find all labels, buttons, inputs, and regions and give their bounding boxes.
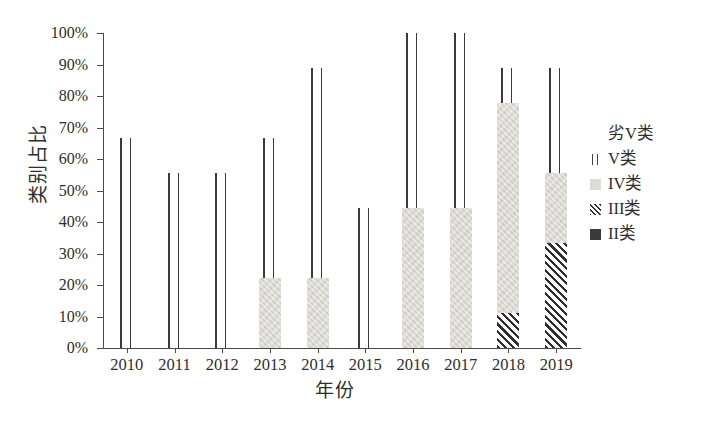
legend-item-label: 劣V类 <box>608 126 654 143</box>
light-gray-icon <box>590 179 601 190</box>
y-tick-label: 50% <box>59 182 88 200</box>
legend-item-label: II类 <box>608 226 636 243</box>
bar-segment-V类 <box>497 68 519 103</box>
y-axis-line <box>103 33 104 349</box>
bar-segment-V类 <box>211 173 233 348</box>
y-tick-label: 90% <box>59 56 88 74</box>
bar-segment-V类 <box>450 33 472 208</box>
x-tick <box>175 348 176 353</box>
bar-segment-IV类 <box>307 278 329 348</box>
bar-stack[interactable] <box>354 33 376 348</box>
x-tick <box>461 348 462 353</box>
legend-item-label: III类 <box>608 201 641 218</box>
x-tick <box>127 348 128 353</box>
legend-item[interactable]: IV类 <box>590 172 700 197</box>
vertical-lines-icon <box>590 154 601 165</box>
bar-segment-IV类 <box>402 208 424 348</box>
bar-segment-IV类 <box>450 208 472 348</box>
x-tick <box>413 348 414 353</box>
bar-segment-V类 <box>116 138 138 348</box>
bar-stack[interactable] <box>164 33 186 348</box>
y-tick-label: 10% <box>59 308 88 326</box>
x-tick-label: 2016 <box>397 355 430 375</box>
legend-item[interactable]: 劣V类 <box>590 122 700 147</box>
x-tick-label: 2011 <box>158 355 190 375</box>
x-tick <box>270 348 271 353</box>
y-tick-label: 80% <box>59 87 88 105</box>
bar-segment-IV类 <box>497 103 519 313</box>
x-tick-label: 2012 <box>206 355 239 375</box>
x-tick-label: 2019 <box>540 355 573 375</box>
legend-item[interactable]: V类 <box>590 147 700 172</box>
y-tick-label: 20% <box>59 276 88 294</box>
plot-area: 0%10%20%30%40%50%60%70%80%90%100% 201020… <box>103 33 580 348</box>
x-tick <box>556 348 557 353</box>
bar-stack[interactable] <box>450 33 472 348</box>
x-tick <box>365 348 366 353</box>
x-tick <box>508 348 509 353</box>
bar-segment-IV类 <box>259 278 281 348</box>
x-tick <box>222 348 223 353</box>
y-tick-label: 70% <box>59 119 88 137</box>
legend-item-label: IV类 <box>608 176 642 193</box>
bar-stack[interactable] <box>497 33 519 348</box>
bar-stack[interactable] <box>545 33 567 348</box>
bar-segment-IV类 <box>545 173 567 243</box>
y-tick-label: 30% <box>59 245 88 263</box>
x-tick-label: 2014 <box>301 355 334 375</box>
bar-stack[interactable] <box>402 33 424 348</box>
legend-item[interactable]: II类 <box>590 222 700 247</box>
bar-segment-V类 <box>402 33 424 208</box>
bar-segment-V类 <box>164 173 186 348</box>
bar-segment-V类 <box>545 68 567 173</box>
solid-dark-icon <box>590 229 601 240</box>
chart-legend: 劣V类V类IV类III类II类 <box>590 122 700 247</box>
x-tick-label: 2013 <box>253 355 286 375</box>
bar-stack[interactable] <box>307 33 329 348</box>
x-axis-title: 年份 <box>230 375 440 402</box>
x-tick-label: 2017 <box>444 355 477 375</box>
bar-stack[interactable] <box>211 33 233 348</box>
x-tick-label: 2010 <box>110 355 143 375</box>
bar-stack[interactable] <box>116 33 138 348</box>
legend-item-label: V类 <box>608 151 637 168</box>
y-tick-label: 40% <box>59 213 88 231</box>
blank-white-icon <box>590 129 601 140</box>
chart-figure: 类别占比 年份 0%10%20%30%40%50%60%70%80%90%100… <box>0 0 704 422</box>
y-tick-label: 60% <box>59 150 88 168</box>
y-axis-title: 类别占比 <box>23 84 50 244</box>
bar-segment-III类 <box>497 313 519 348</box>
bar-stack[interactable] <box>259 33 281 348</box>
legend-item[interactable]: III类 <box>590 197 700 222</box>
diagonal-hatch-icon <box>590 204 601 215</box>
bar-segment-III类 <box>545 243 567 348</box>
bar-segment-V类 <box>354 208 376 348</box>
bar-segment-V类 <box>307 68 329 278</box>
bar-segment-V类 <box>259 138 281 278</box>
y-tick-label: 0% <box>67 339 88 357</box>
y-tick-label: 100% <box>51 24 88 42</box>
x-tick-label: 2018 <box>492 355 525 375</box>
x-tick <box>318 348 319 353</box>
x-tick-label: 2015 <box>349 355 382 375</box>
